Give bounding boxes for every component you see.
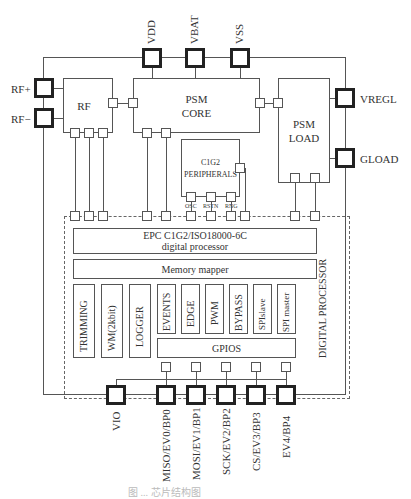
pin-label-miso: MISO/EV0/BP0 [161,409,172,482]
pin-vregl [335,88,355,108]
dp-port-top [70,211,80,221]
rf-block-label: RF [77,100,90,112]
epc-line1: EPC C1G2/ISO18000-6C [143,230,247,241]
psm-core-port-left [128,98,138,108]
pin-miso-ev0-bp0 [156,385,176,405]
epc-processor-block: EPC C1G2/ISO18000-6C digital processor [73,228,317,254]
module-label-spimaster: SPI master [282,293,291,332]
epc-line2: digital processor [162,241,228,252]
module-logger: LOGGER [129,284,151,358]
dp-port-top [161,211,171,221]
psm-load-block: PSM LOAD [278,78,330,183]
module-pwm: PWM [205,284,224,334]
digital-processor-label: DIGITAL PROCESSOR [318,259,328,358]
figure-caption: 图 ... 芯片结构图 [128,484,201,499]
wire-rfp-stub [53,88,63,89]
module-label-logger: LOGGER [135,306,145,347]
wire-top-rail [162,57,185,58]
wire-top-rail [43,57,44,79]
pin-ev4-bp4 [276,385,296,405]
dp-port-top [240,211,250,221]
pin-rf-plus [34,78,54,98]
gpios-block: GPIOS [157,338,296,358]
pin-label-vss: VSS [234,24,245,44]
wire-top-rail [250,57,345,58]
pin-vdd [142,48,162,68]
c1g2-line1: C1G2 [201,158,220,167]
wire-right-rail [345,57,346,88]
wire-osc-dp [191,202,192,211]
c1g2-port-right [235,163,245,173]
pin-label-gload: GLOAD [360,154,399,165]
psm-core-line1: PSM [185,93,207,105]
pin-label-vdd: VDD [146,20,157,44]
module-label-spislave: SPIslave [258,299,267,331]
rf-port-right [108,98,118,108]
pin-label-mosi: MOSI/EV1/BP1 [191,407,202,480]
rf-port-bottom-3 [98,128,108,138]
pin-label-rf-minus: RF− [11,114,31,125]
module-spislave: SPIslave [253,284,272,334]
dp-port-top [310,211,320,221]
pin-label-vbat: VBAT [189,15,200,44]
pin-vio [106,385,126,405]
pin-label-ev4: EV4/BP4 [281,416,292,458]
module-trimming: TRIMMING [73,284,95,358]
c1g2-port-rng [226,192,236,202]
psm-load-port-left [273,98,283,108]
module-wm: WM(2kbit) [101,284,123,358]
wire-rf-dp [75,138,76,216]
wire-rng-dp [231,202,232,211]
gpio-port [281,362,291,372]
wire-core-dp [166,138,167,216]
wire-rfm-stub [53,118,63,119]
dp-port-top [226,211,236,221]
pin-label-vio: VIO [111,411,122,431]
wire-rf-psm [118,103,128,104]
gpio-port [221,362,231,372]
pin-label-rf-plus: RF+ [11,84,31,95]
psm-load-line2: LOAD [289,132,320,144]
memory-mapper-block: Memory mapper [73,259,317,279]
dp-port-top [186,211,196,221]
module-label-trimming: TRIMMING [79,300,89,352]
c1g2-line2: PERIPHERALS [184,170,237,179]
dp-port-top [142,211,152,221]
gpio-port [191,362,201,372]
rf-block: RF [63,78,113,133]
module-label-events: EVENTS [162,293,172,331]
pin-label-sck: SCK/EV2/BP2 [221,408,232,475]
pin-vbat [185,48,205,68]
rf-port-bottom-2 [84,128,94,138]
psm-load-line1: PSM [293,118,315,130]
module-label-bypass: BYPASS [234,294,244,331]
pin-mosi-ev1-bp1 [186,385,206,405]
psm-core-port-bottom-1 [142,128,152,138]
pin-vss [230,48,250,68]
pin-label-vregl: VREGL [360,94,397,105]
c1g2-port-rstn [206,192,216,202]
dp-port-top [206,211,216,221]
module-edge: EDGE [181,284,200,334]
wire-core-load [265,103,273,104]
module-spimaster: SPI master [277,284,296,334]
wire-left-rail [43,98,44,108]
gpios-label: GPIOS [212,343,241,354]
psm-load-port-bottom-2 [310,173,320,183]
pin-rf-minus [34,108,54,128]
wire-top-rail [43,57,143,58]
module-bypass: BYPASS [229,284,248,334]
wire-rf-dp [103,138,104,216]
pin-gload [335,148,355,168]
wire-core-dp [147,138,148,216]
pin-label-cs: CS/EV3/BP3 [251,412,262,471]
module-label-pwm: PWM [210,301,220,325]
c1g2-port-osc [186,192,196,202]
module-events: EVENTS [157,284,176,334]
module-label-wm: WM(2kbit) [107,305,117,351]
wire-top-rail [205,57,230,58]
wire-rf-dp [89,138,90,216]
psm-load-port-bottom-1 [290,173,300,183]
psm-core-port-right [255,98,265,108]
psm-core-port-bottom-2 [161,128,171,138]
